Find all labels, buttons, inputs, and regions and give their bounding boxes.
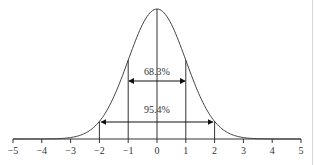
outer-interval-label: 95.4% xyxy=(144,104,170,115)
page-edge-divider xyxy=(312,0,313,165)
x-tick-label: 0 xyxy=(155,145,160,156)
x-tick-label: −5 xyxy=(8,145,19,156)
x-tick-label: 2 xyxy=(212,145,217,156)
x-tick-label: 3 xyxy=(241,145,246,156)
x-tick-label: 5 xyxy=(299,145,304,156)
x-tick-label: −3 xyxy=(65,145,76,156)
x-tick-label: −2 xyxy=(94,145,105,156)
x-axis-ticks: −5−4−3−2−1012345 xyxy=(8,139,304,156)
normal-distribution-chart: −5−4−3−2−1012345 68.3% 95.4% xyxy=(0,0,314,165)
inner-interval-label: 68.3% xyxy=(144,66,170,77)
x-tick-label: 1 xyxy=(183,145,188,156)
x-tick-label: 4 xyxy=(270,145,275,156)
x-tick-label: −4 xyxy=(36,145,47,156)
chart-svg: −5−4−3−2−1012345 68.3% 95.4% xyxy=(0,0,314,165)
x-tick-label: −1 xyxy=(123,145,134,156)
